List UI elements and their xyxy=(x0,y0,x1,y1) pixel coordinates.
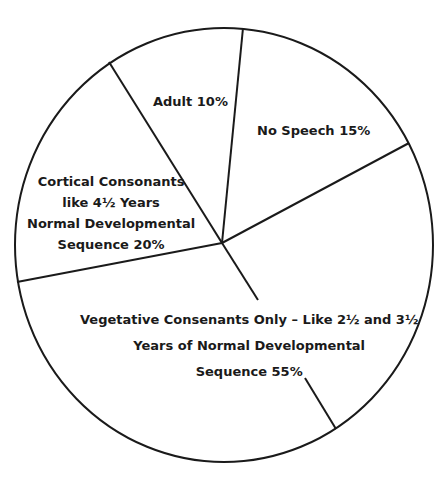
divider-stub-edge xyxy=(305,378,336,429)
divider-stub-center xyxy=(222,243,258,300)
label-line: Sequence 55% xyxy=(80,359,418,385)
slice-divider-adult-nospeech xyxy=(222,28,243,243)
slice-divider-nospeech-vegetative xyxy=(222,143,409,243)
label-line: Vegetative Consenants Only – Like 2½ and… xyxy=(80,307,418,333)
label-line: Sequence 20% xyxy=(27,234,195,255)
label-line: like 4½ Years xyxy=(27,192,195,213)
label-line: Normal Developmental xyxy=(27,213,195,234)
label-vegetative-consonants: Vegetative Consenants Only – Like 2½ and… xyxy=(80,307,418,385)
label-line: Years of Normal Developmental xyxy=(80,333,418,359)
label-cortical-consonants: Cortical Consonants like 4½ Years Normal… xyxy=(27,171,195,255)
label-line: Cortical Consonants xyxy=(27,171,195,192)
label-adult: Adult 10% xyxy=(153,95,228,108)
label-no-speech: No Speech 15% xyxy=(257,124,370,137)
